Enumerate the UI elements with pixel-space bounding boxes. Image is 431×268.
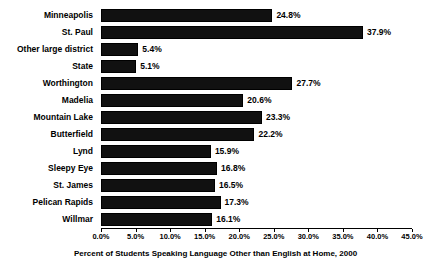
x-axis-tick-label: 20.0% [229, 233, 250, 241]
bar-value-label: 15.9% [211, 145, 239, 158]
bar [101, 43, 138, 56]
x-axis-title: Percent of Students Speaking Language Ot… [0, 250, 431, 258]
bar-value-label: 5.1% [136, 60, 159, 73]
category-label: Mountain Lake [33, 113, 93, 122]
category-label: Lynd [73, 147, 93, 156]
bar-row: 16.1% [101, 211, 412, 228]
bar [101, 26, 363, 39]
category-label-row: Pelican Rapids [0, 194, 97, 211]
bar [101, 77, 292, 90]
category-label: St. James [53, 181, 93, 190]
bar-row: 17.3% [101, 194, 412, 211]
bar-row: 37.9% [101, 24, 412, 41]
category-label-row: Mountain Lake [0, 109, 97, 126]
bar [101, 162, 217, 175]
bar-value-label: 16.1% [212, 213, 240, 226]
category-label: Pelican Rapids [33, 198, 93, 207]
x-axis-tick-label: 15.0% [194, 233, 215, 241]
bar-value-label: 27.7% [292, 77, 320, 90]
category-label-row: Lynd [0, 143, 97, 160]
bar [101, 145, 211, 158]
bar-chart: MinneapolisSt. PaulOther large districtS… [0, 0, 431, 268]
x-axis-tick-label: 40.0% [367, 233, 388, 241]
category-label: Minneapolis [44, 11, 93, 20]
x-axis-tick-label: 45.0% [401, 233, 422, 241]
category-label: Willmar [62, 215, 93, 224]
x-axis-tick-label: 25.0% [263, 233, 284, 241]
bar-row: 23.3% [101, 109, 412, 126]
bar [101, 196, 221, 209]
plot-area: 24.8%37.9%5.4%5.1%27.7%20.6%23.3%22.2%15… [101, 7, 412, 228]
category-axis-labels: MinneapolisSt. PaulOther large districtS… [0, 7, 97, 228]
bar-row: 22.2% [101, 126, 412, 143]
x-axis-tick-label: 10.0% [159, 233, 180, 241]
category-label: State [72, 62, 93, 71]
bar-row: 20.6% [101, 92, 412, 109]
category-label: Butterfield [51, 130, 94, 139]
bar-row: 27.7% [101, 75, 412, 92]
x-axis-tick-label: 5.0% [127, 233, 144, 241]
category-label-row: St. James [0, 177, 97, 194]
category-label-row: State [0, 58, 97, 75]
x-axis-tick-label: 0.0% [92, 233, 109, 241]
category-label-row: Minneapolis [0, 7, 97, 24]
bar-value-label: 22.2% [254, 128, 282, 141]
x-axis-tick-label: 35.0% [332, 233, 353, 241]
bar-row: 5.4% [101, 41, 412, 58]
category-label-row: Sleepy Eye [0, 160, 97, 177]
bar-value-label: 17.3% [221, 196, 249, 209]
category-label: Sleepy Eye [48, 164, 93, 173]
bar [101, 60, 136, 73]
category-label-row: Butterfield [0, 126, 97, 143]
category-label-row: Madelia [0, 92, 97, 109]
category-label-row: Worthington [0, 75, 97, 92]
category-label-row: St. Paul [0, 24, 97, 41]
category-label: Madelia [62, 96, 93, 105]
bar [101, 128, 254, 141]
category-label: St. Paul [62, 28, 93, 37]
bar-row: 24.8% [101, 7, 412, 24]
category-label: Other large district [17, 45, 93, 54]
bar-value-label: 16.5% [215, 179, 243, 192]
bar-value-label: 5.4% [138, 43, 161, 56]
x-axis-tick-label: 30.0% [298, 233, 319, 241]
category-label-row: Other large district [0, 41, 97, 58]
bar [101, 111, 262, 124]
bar-row: 5.1% [101, 58, 412, 75]
bar-value-label: 20.6% [243, 94, 271, 107]
bar-value-label: 23.3% [262, 111, 290, 124]
bar [101, 94, 243, 107]
bar-row: 16.5% [101, 177, 412, 194]
bar [101, 213, 212, 226]
category-label: Worthington [43, 79, 93, 88]
bar-value-label: 16.8% [217, 162, 245, 175]
bar [101, 9, 272, 22]
bar-value-label: 37.9% [363, 26, 391, 39]
bar-row: 16.8% [101, 160, 412, 177]
x-axis-tick-labels: 0.0%5.0%10.0%15.0%20.0%25.0%30.0%35.0%40… [0, 233, 431, 245]
bar-row: 15.9% [101, 143, 412, 160]
category-label-row: Willmar [0, 211, 97, 228]
bar [101, 179, 215, 192]
bar-value-label: 24.8% [272, 9, 300, 22]
